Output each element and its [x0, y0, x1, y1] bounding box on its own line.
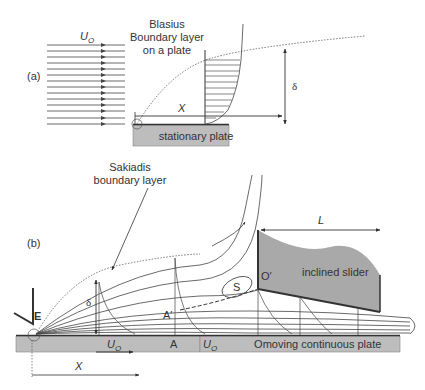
- point-a-label: A: [170, 338, 178, 350]
- panel-b: Sakiadis boundary layer (b) moving conti…: [14, 161, 415, 377]
- panel-a-label: (a): [27, 70, 40, 82]
- blasius-title-line3: on a plate: [143, 44, 191, 56]
- entry-slot: [14, 288, 33, 324]
- panel-a: UO (a) Blasius Boundary layer on a plate…: [27, 18, 365, 146]
- slider-label: inclined slider: [302, 266, 369, 278]
- stationary-plate-label: stationary plate: [159, 130, 234, 142]
- title-pointer-arrow: [112, 188, 148, 270]
- blasius-profile: [206, 24, 243, 124]
- freestream-velocity-label: UO: [80, 30, 94, 45]
- blasius-title-line1: Blasius: [149, 18, 185, 30]
- x-label-a: X: [177, 102, 186, 114]
- freestream-lines: [47, 45, 125, 124]
- freestream-arrowheads: [101, 43, 106, 126]
- sakiadis-title-line1: Sakiadis: [109, 161, 151, 173]
- point-o-label: O: [254, 338, 263, 350]
- profile-vectors: [205, 60, 240, 118]
- x-label-b: X: [74, 360, 83, 372]
- point-o-prime-label: O′: [261, 270, 272, 282]
- sakiadis-title-line2: boundary layer: [94, 174, 167, 186]
- separation-label: S: [233, 281, 240, 293]
- blasius-title-line2: Boundary layer: [130, 31, 204, 43]
- delta-label-a: δ: [292, 80, 297, 92]
- entry-label: E: [34, 310, 41, 322]
- boundary-layer-figure: UO (a) Blasius Boundary layer on a plate…: [0, 0, 425, 390]
- point-a-prime-label: A′: [163, 309, 172, 321]
- moving-plate-label: moving continuous plate: [263, 338, 382, 350]
- slider-length-label: L: [318, 214, 324, 226]
- delta-label-b: δ: [86, 296, 91, 308]
- panel-b-label: (b): [27, 237, 40, 249]
